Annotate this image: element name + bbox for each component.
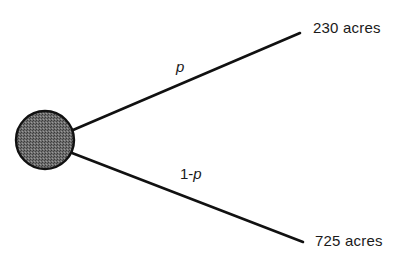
- decision-tree-diagram: [0, 0, 420, 258]
- chance-node-circle: [16, 111, 74, 169]
- outcome-label-lower: 725 acres: [315, 232, 383, 249]
- probability-var-p: p: [176, 58, 184, 75]
- probability-label-lower: 1-p: [180, 165, 202, 182]
- probability-label-upper: p: [176, 58, 184, 75]
- probability-prefix: 1-: [180, 165, 193, 182]
- outcome-label-upper: 230 acres: [313, 19, 381, 36]
- probability-var-p: p: [193, 165, 201, 182]
- branch-line-upper: [73, 33, 300, 130]
